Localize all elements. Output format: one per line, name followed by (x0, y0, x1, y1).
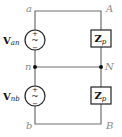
impedance-label-sub: p (102, 95, 107, 103)
junction-dot-n (33, 65, 37, 69)
node-label-b: b (26, 120, 32, 131)
source-label-main: V (2, 91, 11, 102)
impedance-zp-upper: Zp (91, 30, 111, 47)
source-label-sub: nb (11, 95, 21, 103)
node-label-a: a (26, 3, 32, 14)
minus-sign: − (32, 44, 38, 52)
minus-sign: − (32, 100, 38, 108)
impedance-label-main: Z (95, 33, 102, 44)
node-label-B: B (105, 120, 113, 131)
junction-dot-N (99, 65, 103, 69)
source-label-main: V (2, 35, 11, 46)
source-label-vnb: Vnb (2, 91, 20, 104)
wire-top (35, 11, 101, 30)
impedance-zp-lower: Zp (91, 87, 111, 104)
node-label-N: N (104, 61, 115, 72)
voltage-source-nb: + ~ − (25, 86, 45, 108)
circuit-diagram: + ~ − Van + ~ − Vnb Zp Zp a A n N b B (0, 0, 122, 137)
impedance-label-main: Z (95, 90, 102, 101)
node-label-A: A (105, 3, 113, 14)
source-label-van: Van (2, 35, 20, 48)
node-label-n: n (25, 61, 31, 72)
voltage-source-an: + ~ − (25, 30, 45, 52)
wire-bottom (35, 104, 101, 124)
wires (35, 11, 101, 124)
impedance-label-sub: p (102, 38, 107, 46)
source-label-sub: an (11, 39, 20, 47)
